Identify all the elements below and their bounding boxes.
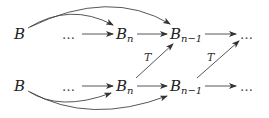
node-bottom-bn-sub: n bbox=[127, 85, 133, 96]
node-top-dots-right: … bbox=[240, 28, 254, 41]
node-top-bn-base: B bbox=[116, 25, 127, 43]
node-top-bn1: Bn−1 bbox=[170, 27, 202, 44]
label-T-1: T bbox=[144, 52, 151, 63]
label-T-2: T bbox=[207, 52, 214, 63]
commutative-diagram: B … Bn Bn−1 … T T B … Bn Bn−1 … bbox=[0, 0, 269, 118]
node-bottom-dots-right: … bbox=[240, 80, 254, 93]
node-top-dots-left: … bbox=[62, 28, 76, 41]
node-bottom-bn-base: B bbox=[116, 77, 127, 95]
node-bottom-bn: Bn bbox=[116, 79, 133, 96]
arrow-diag-T-2 bbox=[197, 41, 239, 78]
node-bottom-b: B bbox=[14, 79, 25, 94]
node-top-bn1-base: B bbox=[170, 25, 181, 43]
node-top-bn1-sub: n−1 bbox=[181, 33, 202, 44]
node-top-bn: Bn bbox=[116, 27, 133, 44]
arrow-top-b-to-bn1 bbox=[30, 7, 170, 27]
arrow-diag-T-1 bbox=[136, 44, 173, 78]
node-bottom-bn1: Bn−1 bbox=[170, 79, 202, 96]
node-top-bn-sub: n bbox=[127, 33, 133, 44]
node-bottom-dots-left: … bbox=[62, 80, 76, 93]
arrow-top-b-to-bn bbox=[28, 14, 113, 28]
node-bottom-bn1-sub: n−1 bbox=[181, 85, 202, 96]
node-top-b: B bbox=[14, 27, 25, 42]
node-bottom-bn1-base: B bbox=[170, 77, 181, 95]
diagram-arrows bbox=[0, 0, 269, 118]
